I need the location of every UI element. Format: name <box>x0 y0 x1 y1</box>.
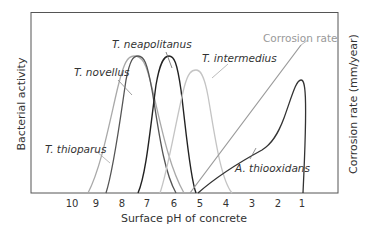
x-tick-2: 2 <box>275 198 281 209</box>
x-tick-7: 7 <box>144 198 150 209</box>
y-axis-title-left: Bacterial activity <box>15 57 28 150</box>
label-neapolitanus: T. neapolitanus <box>112 38 192 50</box>
x-tick-1: 1 <box>299 198 305 209</box>
label-novellus: T. novellus <box>74 66 130 78</box>
label-thiooxidans: A. thiooxidans <box>234 162 310 174</box>
x-tick-5: 5 <box>197 198 203 209</box>
leader-novellus <box>118 80 132 95</box>
x-tick-8: 8 <box>119 198 125 209</box>
leader-neapolitanus <box>166 52 172 68</box>
y-axis-title-right: Corrosion rate (mm/year) <box>347 34 360 174</box>
x-tick-3: 3 <box>249 198 255 209</box>
series-thiooxidans-curve <box>198 80 306 193</box>
x-axis-title: Surface pH of concrete <box>121 212 247 225</box>
label-corrosion-rate: Corrosion rate <box>263 32 338 44</box>
x-tick-10: 10 <box>66 198 79 209</box>
x-tick-9: 9 <box>93 198 99 209</box>
label-thioparus: T. thioparus <box>45 143 107 155</box>
bacterial-activity-chart: T. thioparus T. novellus T. neapolitanus… <box>0 0 368 235</box>
label-intermedius: T. intermedius <box>202 52 277 64</box>
x-tick-4: 4 <box>223 198 229 209</box>
leader-intermedius <box>212 64 228 78</box>
x-tick-6: 6 <box>171 198 177 209</box>
